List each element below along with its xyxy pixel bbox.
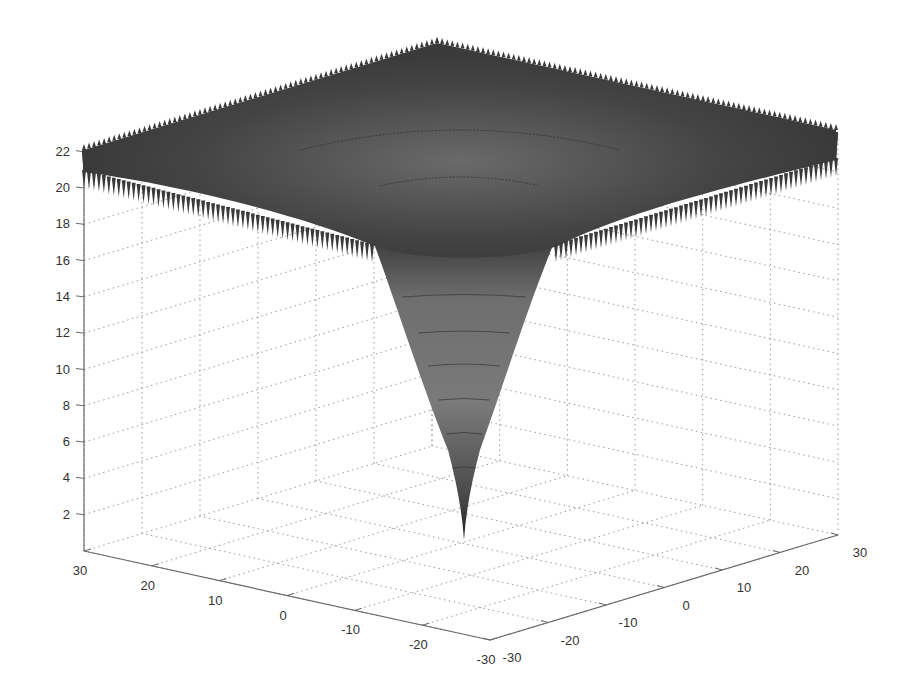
x-tick-mark	[84, 549, 91, 551]
x-tick-mark	[287, 594, 294, 596]
z-tick-label: 14	[56, 289, 70, 304]
x-tick-label: 0	[279, 608, 286, 623]
z-tick-label: 16	[56, 253, 70, 268]
x-tick-label: 30	[73, 563, 87, 578]
x-axis-ticks: 3020100-10-20-30	[73, 549, 497, 667]
z-tick-mark	[76, 260, 84, 261]
x-tick-label: -20	[409, 637, 428, 652]
funnel-surface	[372, 238, 556, 540]
x-tick-mark	[422, 623, 429, 625]
x-tick-mark	[490, 638, 497, 640]
z-tick-label: 2	[63, 507, 70, 522]
y-tick-label: 30	[853, 545, 867, 560]
z-tick-mark	[76, 514, 84, 515]
surface	[82, 37, 838, 540]
z-tick-mark	[76, 405, 84, 406]
z-tick-mark	[76, 441, 84, 442]
x-tick-label: -30	[477, 652, 496, 667]
z-tick-label: 8	[63, 398, 70, 413]
x-tick-label: 20	[140, 578, 154, 593]
z-tick-label: 4	[63, 470, 70, 485]
x-tick-label: -10	[341, 622, 360, 637]
y-tick-label: -30	[503, 650, 522, 665]
x-tick-mark	[152, 564, 159, 566]
x-tick-mark	[355, 608, 362, 610]
y-tick-label: 0	[682, 598, 689, 613]
z-tick-label: 18	[56, 216, 70, 231]
x-tick-label: 10	[208, 593, 222, 608]
z-tick-mark	[76, 332, 84, 333]
y-axis-ticks: -30-20-100102030	[483, 533, 867, 665]
z-tick-mark	[76, 296, 84, 297]
surface-plot: 222018161412108642 3020100-10-20-30 -30-…	[0, 0, 905, 697]
x-tick-mark	[219, 579, 226, 581]
z-tick-label: 20	[56, 180, 70, 195]
z-tick-mark	[76, 223, 84, 224]
z-tick-label: 6	[63, 434, 70, 449]
y-tick-label: -10	[619, 615, 638, 630]
y-tick-label: -20	[561, 633, 580, 648]
z-tick-label: 22	[56, 144, 70, 159]
z-tick-label: 12	[56, 325, 70, 340]
plateau-surface	[84, 43, 836, 258]
z-axis-ticks: 222018161412108642	[56, 144, 84, 522]
z-tick-mark	[76, 477, 84, 478]
z-tick-mark	[76, 369, 84, 370]
z-tick-mark	[76, 187, 84, 188]
y-tick-label: 10	[737, 580, 751, 595]
z-tick-label: 10	[56, 362, 70, 377]
y-tick-label: 20	[795, 563, 809, 578]
